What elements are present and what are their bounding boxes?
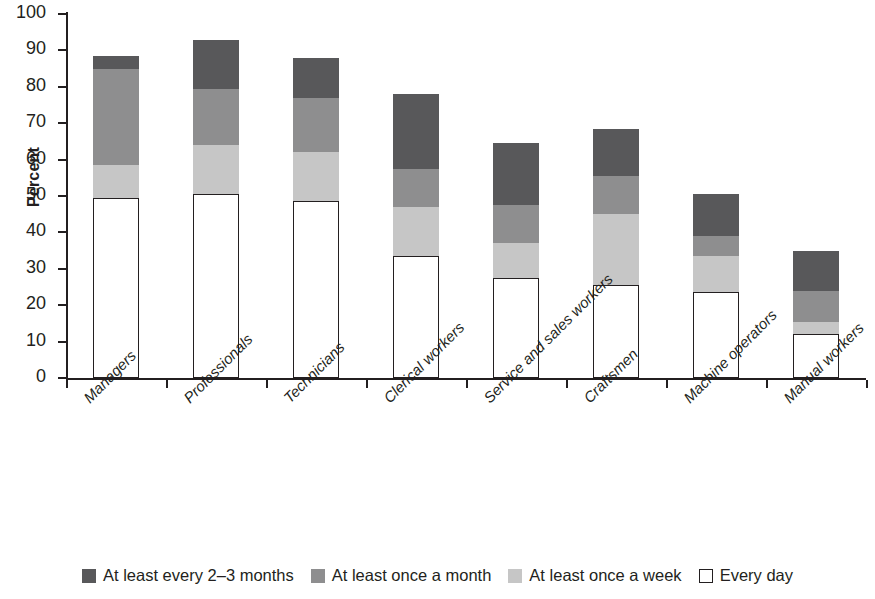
- y-axis-tick-label: 20: [0, 294, 46, 312]
- dark-gray-swatch: [82, 569, 96, 583]
- bar-segment-at-least-once-a-week: [793, 322, 839, 335]
- y-axis-tick-label: 0: [0, 367, 46, 385]
- y-axis-tick: [58, 377, 66, 379]
- x-axis-tick: [466, 380, 468, 388]
- y-axis-tick-label: 10: [0, 331, 46, 349]
- y-axis-tick-label: 40: [0, 221, 46, 239]
- y-axis-tick: [58, 231, 66, 233]
- chart-legend: At least every 2–3 monthsAt least once a…: [0, 566, 875, 585]
- bar-professionals: [193, 14, 239, 378]
- y-axis-tick-label: 70: [0, 112, 46, 130]
- light-gray-swatch: [508, 569, 522, 583]
- stacked-bar-chart: Percent 0102030405060708090100 ManagersP…: [0, 0, 875, 599]
- y-axis-tick: [58, 49, 66, 51]
- bar-segment-at-least-every-2-3-months: [593, 129, 639, 176]
- bar-technicians: [293, 14, 339, 378]
- bar-segment-at-least-every-2-3-months: [493, 143, 539, 205]
- bar-segment-at-least-once-a-month: [793, 291, 839, 322]
- y-axis-tick: [58, 86, 66, 88]
- y-axis-tick: [58, 195, 66, 197]
- bar-segment-at-least-once-a-week: [493, 243, 539, 278]
- bar-segment-at-least-every-2-3-months: [793, 251, 839, 291]
- x-axis-tick: [66, 380, 68, 388]
- legend-item-at-least-every-2-3-months[interactable]: At least every 2–3 months: [82, 566, 294, 585]
- medium-gray-swatch: [311, 569, 325, 583]
- bar-segment-at-least-once-a-month: [93, 69, 139, 165]
- y-axis-tick: [58, 341, 66, 343]
- y-axis-tick-label: 90: [0, 39, 46, 57]
- x-axis-tick: [266, 380, 268, 388]
- legend-label: At least once a month: [332, 566, 492, 585]
- y-axis-tick-label: 80: [0, 76, 46, 94]
- bar-segment-at-least-once-a-month: [193, 89, 239, 145]
- x-axis-tick: [566, 380, 568, 388]
- bar-managers: [93, 14, 139, 378]
- legend-label: Every day: [720, 566, 793, 585]
- y-axis-tick: [58, 122, 66, 124]
- y-axis-tick: [58, 159, 66, 161]
- y-axis-tick: [58, 268, 66, 270]
- bar-segment-at-least-once-a-month: [593, 176, 639, 214]
- bar-segment-at-least-every-2-3-months: [293, 58, 339, 98]
- legend-label: At least every 2–3 months: [103, 566, 294, 585]
- bar-segment-at-least-once-a-week: [293, 152, 339, 201]
- y-axis-tick: [58, 13, 66, 15]
- y-axis-tick-label: 30: [0, 258, 46, 276]
- white-outline-swatch: [699, 569, 713, 583]
- bar-clerical-workers: [393, 14, 439, 378]
- bar-service-and-sales-workers: [493, 14, 539, 378]
- bar-segment-at-least-every-2-3-months: [193, 40, 239, 89]
- bar-manual-workers: [793, 14, 839, 378]
- legend-item-every-day[interactable]: Every day: [699, 566, 793, 585]
- x-axis-tick: [766, 380, 768, 388]
- y-axis-tick-label: 50: [0, 185, 46, 203]
- bar-segment-at-least-once-a-week: [393, 207, 439, 256]
- y-axis-tick: [58, 304, 66, 306]
- x-axis-tick: [166, 380, 168, 388]
- bar-segment-at-least-once-a-week: [193, 145, 239, 194]
- bar-segment-at-least-once-a-month: [493, 205, 539, 243]
- bar-segment-at-least-once-a-month: [393, 169, 439, 207]
- bar-machine-operators: [693, 14, 739, 378]
- bar-segment-at-least-every-2-3-months: [93, 56, 139, 69]
- plot-area: [66, 14, 866, 378]
- bar-segment-at-least-every-2-3-months: [693, 194, 739, 236]
- bar-segment-at-least-once-a-week: [93, 165, 139, 198]
- bar-segment-at-least-once-a-week: [693, 256, 739, 292]
- y-axis-title: Percent: [25, 117, 43, 237]
- bar-segment-at-least-once-a-month: [693, 236, 739, 256]
- bar-segment-at-least-every-2-3-months: [393, 94, 439, 169]
- y-axis-tick-label: 100: [0, 3, 46, 21]
- y-axis-tick-label: 60: [0, 149, 46, 167]
- x-axis-tick: [666, 380, 668, 388]
- bar-segment-at-least-once-a-month: [293, 98, 339, 153]
- legend-item-at-least-once-a-week[interactable]: At least once a week: [508, 566, 681, 585]
- bar-craftsmen: [593, 14, 639, 378]
- x-axis-tick: [366, 380, 368, 388]
- x-axis-tick: [866, 380, 868, 388]
- legend-label: At least once a week: [529, 566, 681, 585]
- legend-item-at-least-once-a-month[interactable]: At least once a month: [311, 566, 492, 585]
